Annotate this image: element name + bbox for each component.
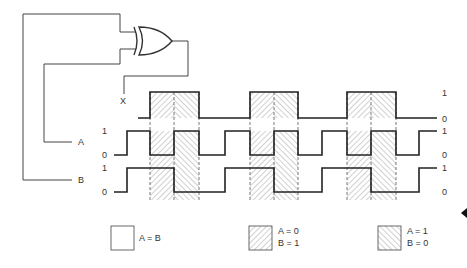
xor-gate-icon [134,27,172,55]
region-a0b1 [250,92,274,200]
wire-a [44,49,120,142]
input-label-a: A [78,137,84,147]
b-low-label-right: 0 [442,187,447,197]
b-low-label-left: 0 [102,187,107,197]
a-high-label-right: 1 [442,126,447,136]
legend-swatch-equal [111,226,134,250]
x-high-label: 1 [442,88,447,98]
legend-swatch-a0b1 [249,226,272,250]
region-a1b0 [274,92,298,200]
legend-swatch-a1b0 [378,226,401,250]
a-low-label-right: 0 [442,150,447,160]
region-a0b1 [347,92,371,200]
edge-arrow-icon [461,208,467,218]
region-a1b0 [174,92,199,200]
a-high-label-left: 1 [102,126,107,136]
legend: A = B A = 0 B = 1 A = 1 B = 0 [111,226,428,250]
legend-label-equal: A = B [139,233,161,243]
region-a1b0 [371,92,396,200]
legend-label-a1b0-line2: B = 0 [407,238,428,248]
a-low-label-left: 0 [102,150,107,160]
b-high-label-right: 1 [442,163,447,173]
xor-timing-diagram: X A B 1 0 1 [0,0,467,268]
b-high-label-left: 1 [102,163,107,173]
legend-label-a0b1-line2: B = 1 [278,238,299,248]
legend-label-a0b1-line1: A = 0 [278,226,299,236]
input-label-b: B [78,175,84,185]
region-a0b1 [150,92,174,200]
legend-label-a1b0-line1: A = 1 [407,226,428,236]
shaded-regions [150,92,396,200]
output-label-x: X [120,96,126,106]
x-low-label: 0 [442,114,447,124]
